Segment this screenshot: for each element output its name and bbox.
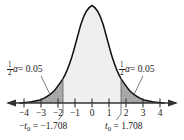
left-critical-subscript: 0 <box>27 125 30 132</box>
left-alpha-value: = 0.05 <box>18 64 42 74</box>
right-alpha-denominator: 2 <box>119 69 125 77</box>
axis-arrow-right <box>168 100 178 107</box>
right-critical-subscript: 0 <box>108 125 111 132</box>
left-alpha-denominator: 2 <box>7 69 13 77</box>
non-rejection-region <box>63 6 121 104</box>
tick-label-0: 0 <box>85 108 99 118</box>
right-alpha-label: 1 2 α= 0.05 <box>119 62 154 77</box>
left-critical-value: = −1.708 <box>33 121 67 131</box>
tick-label--4: −4 <box>17 108 31 118</box>
tick-label-2: 2 <box>119 108 133 118</box>
right-critical-label: t0 = 1.708 <box>105 121 143 132</box>
right-critical-value: = 1.708 <box>113 121 142 131</box>
right-alpha-fraction: 1 2 <box>119 62 125 77</box>
tick-label--3: −3 <box>34 108 48 118</box>
t-distribution-chart: 1 2 α= 0.05 1 2 α= 0.05 −4 −3 −2 −1 0 1 … <box>0 0 184 140</box>
right-alpha-numerator: 1 <box>119 62 125 69</box>
tick-label--1: −1 <box>68 108 82 118</box>
tick-label-1: 1 <box>102 108 116 118</box>
tick-label--2: −2 <box>51 108 65 118</box>
right-alpha-value: = 0.05 <box>130 64 154 74</box>
tick-label-4: 4 <box>153 108 167 118</box>
tick-label-3: 3 <box>136 108 150 118</box>
right-alpha-leader <box>134 76 144 96</box>
left-alpha-fraction: 1 2 <box>7 62 13 77</box>
left-alpha-leader <box>41 76 51 96</box>
left-alpha-numerator: 1 <box>7 62 13 69</box>
axis-arrow-left <box>6 100 16 107</box>
left-alpha-label: 1 2 α= 0.05 <box>7 62 42 77</box>
left-critical-label: −t0 = −1.708 <box>19 121 67 132</box>
